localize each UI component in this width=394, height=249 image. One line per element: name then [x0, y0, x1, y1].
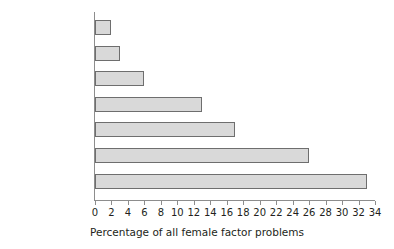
bar: [95, 148, 309, 163]
x-axis-tick: [194, 201, 195, 205]
x-axis-tick: [111, 201, 112, 205]
bar: [95, 174, 367, 189]
bar-chart: VaginalCervicalEndometriosisUterineUnexp…: [0, 0, 394, 249]
x-axis-tick: [359, 201, 360, 205]
x-axis-tick: [243, 201, 244, 205]
bar: [95, 122, 235, 137]
x-axis-tick: [161, 201, 162, 205]
x-axis-tick: [177, 201, 178, 205]
bar: [95, 46, 120, 61]
x-axis-tick: [342, 201, 343, 205]
x-axis-tick: [309, 201, 310, 205]
x-axis-tick: [326, 201, 327, 205]
plot-area: VaginalCervicalEndometriosisUterineUnexp…: [0, 0, 394, 249]
x-axis-tick: [95, 201, 96, 205]
x-axis-tick: [375, 201, 376, 205]
x-axis-tick: [128, 201, 129, 205]
x-axis-tick: [227, 201, 228, 205]
x-axis-tick-label: 34: [363, 206, 387, 219]
x-axis-tick: [293, 201, 294, 205]
bar: [95, 97, 202, 112]
x-axis-title: Percentage of all female factor problems: [0, 226, 394, 238]
x-axis-tick: [144, 201, 145, 205]
x-axis-line: [94, 200, 375, 201]
x-axis-tick: [210, 201, 211, 205]
x-axis-tick: [276, 201, 277, 205]
x-axis-tick: [260, 201, 261, 205]
bar: [95, 71, 144, 86]
bar: [95, 20, 111, 35]
